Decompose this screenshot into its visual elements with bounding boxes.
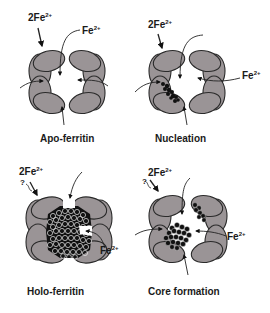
ion-label-fe-apo: Fe2+ xyxy=(82,25,101,36)
panel-core-formation xyxy=(135,178,227,275)
ion-label-question-holo: ? xyxy=(20,178,25,187)
panel-title-holo-ferritin: Holo-ferritin xyxy=(27,286,84,297)
ion-label-2fe-apo: 2Fe2+ xyxy=(28,12,52,23)
ion-label-question-core: ? xyxy=(142,177,147,186)
ion-label-fe-holo: Fe2+ xyxy=(100,245,119,256)
ferritin-diagram xyxy=(0,0,270,313)
panel-nucleation xyxy=(135,34,240,125)
protein-shell xyxy=(149,47,225,117)
ion-label-2fe-holo: 2Fe2+ xyxy=(19,166,43,177)
ion-label-fe-core: Fe2+ xyxy=(227,231,246,242)
ion-label-2fe-core: 2Fe2+ xyxy=(148,167,172,178)
protein-shell xyxy=(29,47,105,117)
panel-apo-ferritin xyxy=(20,28,108,125)
panel-title-core-formation: Core formation xyxy=(148,286,220,297)
panel-title-nucleation: Nucleation xyxy=(155,133,206,144)
ion-label-fe-nucleation: Fe2+ xyxy=(242,70,261,81)
ion-label-2fe-nucleation: 2Fe2+ xyxy=(148,19,172,30)
panel-title-apo-ferritin: Apo-ferritin xyxy=(40,133,94,144)
